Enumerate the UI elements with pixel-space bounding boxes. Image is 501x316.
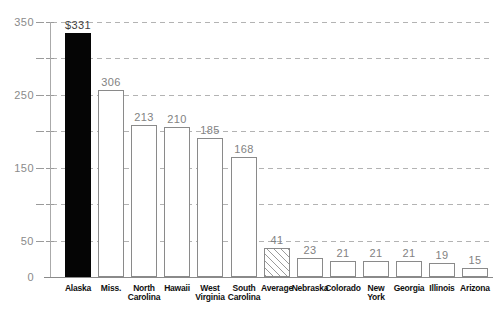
bar-value-label: 306 (89, 76, 133, 89)
bar-georgia (396, 261, 422, 277)
gridline-300 (52, 58, 493, 59)
bar-colorado (330, 261, 356, 277)
bar-hawaii (164, 127, 190, 277)
bar-chart: Pork per Capita, 2007 050150250350$331Al… (0, 0, 501, 316)
y-tick-outer-150 (36, 168, 44, 169)
bar-nebraska (297, 258, 323, 277)
y-tick-outer-250 (36, 95, 44, 96)
bar-new-york (363, 261, 389, 277)
y-tick-label-50: 50 (4, 235, 34, 247)
y-tick-label-250: 250 (4, 89, 34, 101)
bar-alaska (65, 33, 91, 277)
y-axis-line (50, 22, 51, 277)
bar-arizona (462, 268, 488, 277)
y-tick-outer-50 (36, 241, 44, 242)
x-axis-line (44, 277, 493, 278)
y-tick-outer-350 (36, 22, 44, 23)
bar-west-virginia (197, 138, 223, 277)
y-tick-label-150: 150 (4, 162, 34, 174)
bar-north-carolina (131, 125, 157, 277)
category-label: Arizona (453, 284, 497, 293)
y-tick-label-0: 0 (4, 271, 34, 283)
y-tick-outer-100 (36, 204, 44, 205)
y-tick-outer-200 (36, 131, 44, 132)
gridline-350 (52, 22, 493, 23)
bar-value-label: $331 (56, 19, 100, 32)
y-tick-label-350: 350 (4, 16, 34, 28)
bar-value-label: 185 (188, 124, 232, 137)
bar-value-label: 168 (222, 143, 266, 156)
bar-south-carolina (231, 157, 257, 277)
y-tick-outer-300 (36, 58, 44, 59)
bar-value-label: 15 (453, 254, 497, 267)
bar-miss (98, 90, 124, 277)
chart-title-cropped: Pork per Capita, 2007 (185, 0, 345, 4)
bar-illinois (429, 263, 455, 277)
bar-average (264, 248, 290, 277)
